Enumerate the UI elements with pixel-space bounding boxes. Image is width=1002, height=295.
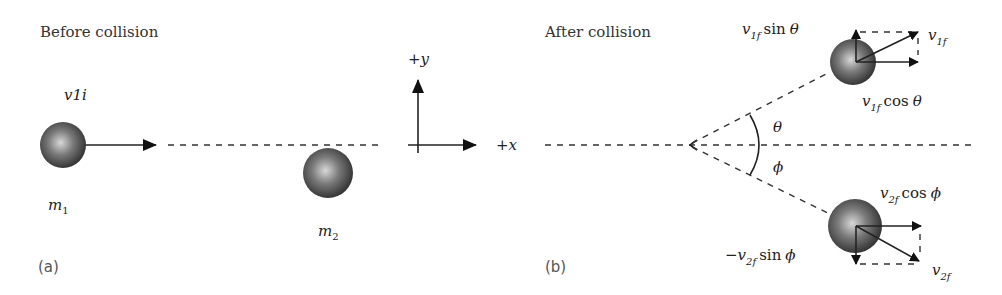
collision-diagram: Before collision v1i m1 m2 +y +x (a) Aft… [0,0,1002,295]
m2-label: m2 [318,222,339,242]
theta-label: θ [773,118,782,136]
ball-m2 [303,148,353,198]
v2f-label: v2f [932,261,953,282]
panel-b-title: After collision [544,23,651,41]
ball-2-after: v2f v2fcosϕ −v2fsinϕ [725,184,953,282]
ball-m1 [40,122,86,168]
v1f-cos-label: v1fcosθ [862,92,922,113]
v1i-label: v1i [64,86,87,104]
lower-trajectory [692,147,830,214]
y-axis-label: +y [408,50,430,68]
m1-label: m1 [48,196,69,216]
panel-a-before-collision: Before collision v1i m1 m2 +y +x (a) [38,23,518,276]
x-axis-label: +x [496,136,518,154]
panel-a-title: Before collision [40,23,159,41]
panel-b-after-collision: After collision θ ϕ v1f v1fsinθ v1fcosθ [544,20,975,282]
v1f-sin-label: v1fsinθ [742,20,799,41]
phi-label: ϕ [773,158,783,176]
panel-b-label: (b) [545,258,566,276]
upper-trajectory [692,72,830,143]
panel-a-label: (a) [38,258,59,276]
coordinate-axes: +y +x [408,50,518,154]
v1f-label: v1f [928,26,949,47]
ball-1-after: v1f v1fsinθ v1fcosθ [742,20,949,113]
v2f-cos-label: v2fcosϕ [880,184,941,205]
v2f-sin-label: −v2fsinϕ [725,246,796,267]
